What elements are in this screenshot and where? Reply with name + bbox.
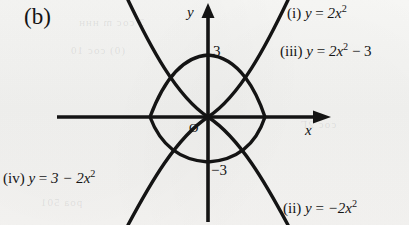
origin-label: O xyxy=(189,121,198,134)
label-curve-i: (i) y = 2x2 xyxy=(287,6,347,21)
x-axis-label: x xyxy=(305,123,312,138)
label-curve-i-id: (i) xyxy=(287,5,301,21)
label-curve-iv-id: (iv) xyxy=(3,170,25,186)
label-curve-ii-id: (ii) xyxy=(283,200,301,216)
parabolas-plot xyxy=(0,0,409,225)
label-curve-iii-eq: = xyxy=(317,43,325,59)
label-curve-iv-rhs: 3 − 2x xyxy=(51,170,90,186)
label-curve-iv-exponent: 2 xyxy=(90,168,95,179)
y-axis-label: y xyxy=(187,5,194,20)
label-curve-ii-exponent: 2 xyxy=(352,198,357,209)
label-curve-i-eq: = xyxy=(315,5,323,21)
y-tick-negative-3: −3 xyxy=(211,163,227,178)
label-curve-iv-lhs: y xyxy=(28,170,35,186)
label-curve-ii: (ii) y = −2x2 xyxy=(283,201,357,216)
label-curve-iv-eq: = xyxy=(39,170,47,186)
label-curve-ii-eq: = xyxy=(316,200,324,216)
label-curve-iii-lhs: y xyxy=(306,43,313,59)
label-curve-iii-id: (iii) xyxy=(280,43,303,59)
y-tick-positive-3: 3 xyxy=(213,44,221,59)
label-curve-ii-lhs: y xyxy=(305,200,312,216)
label-curve-ii-rhs: −2x xyxy=(328,200,352,216)
label-curve-iii: (iii) y = 2x2 − 3 xyxy=(280,44,372,59)
label-curve-iv: (iv) y = 3 − 2x2 xyxy=(3,171,95,186)
label-curve-i-lhs: y xyxy=(305,5,312,21)
label-curve-iii-rhs-post: − 3 xyxy=(348,43,371,59)
label-curve-i-rhs: 2x xyxy=(328,5,342,21)
figure-canvas: 3 сос m ннн (0) сос 10 сос 2Г роа 501 xyxy=(0,0,409,225)
label-curve-i-exponent: 2 xyxy=(342,3,347,14)
label-curve-iii-rhs: 2x xyxy=(329,43,343,59)
panel-label: (b) xyxy=(24,5,51,28)
